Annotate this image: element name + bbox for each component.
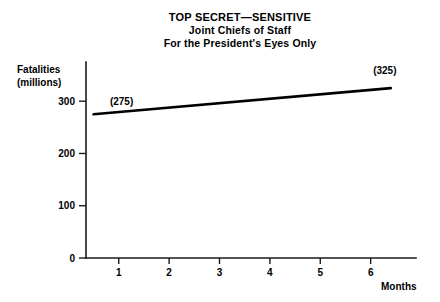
point-annotation-label: (325) xyxy=(373,65,396,76)
x-tick-label: 5 xyxy=(317,267,323,278)
x-tick-label: 3 xyxy=(217,267,223,278)
y-tick-label: 300 xyxy=(58,96,75,107)
y-tick-label: 200 xyxy=(58,148,75,159)
y-tick-label: 0 xyxy=(69,253,75,264)
x-tick-label: 6 xyxy=(368,267,374,278)
x-tick-label: 1 xyxy=(116,267,122,278)
x-axis-ticks: 123456 xyxy=(116,258,374,278)
point-annotation-label: (275) xyxy=(110,96,133,107)
y-tick-label: 100 xyxy=(58,200,75,211)
plot-area: 0100200300 123456 (275)(325) xyxy=(0,0,440,302)
fatalities-line xyxy=(94,88,391,114)
chart-figure: TOP SECRET—SENSITIVE Joint Chiefs of Sta… xyxy=(0,0,440,302)
y-axis-ticks: 0100200300 xyxy=(58,96,86,264)
x-tick-label: 4 xyxy=(267,267,273,278)
data-series-group xyxy=(94,88,391,114)
x-tick-label: 2 xyxy=(166,267,172,278)
